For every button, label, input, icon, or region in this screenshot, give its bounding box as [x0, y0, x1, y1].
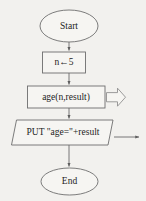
hollow-block-arrow-shape — [107, 88, 126, 106]
node-assign-label: n←5 — [55, 57, 74, 67]
node-start[interactable]: Start — [40, 10, 98, 42]
node-output[interactable]: PUT "age="+result — [12, 120, 114, 145]
node-call-label: age(n,result) — [42, 92, 90, 103]
node-start-label: Start — [60, 21, 78, 31]
node-assign[interactable]: n←5 — [43, 52, 86, 73]
call-block-arrow-right-icon — [107, 88, 126, 106]
node-end-label: End — [62, 176, 78, 186]
flowchart-svg: Start n←5 age(n,result) PUT "age="+resul… — [0, 0, 146, 201]
node-call[interactable]: age(n,result) — [28, 86, 106, 108]
node-output-label: PUT "age="+result — [27, 127, 100, 137]
flowchart-canvas: Start n←5 age(n,result) PUT "age="+resul… — [0, 0, 146, 201]
node-end[interactable]: End — [41, 168, 98, 195]
